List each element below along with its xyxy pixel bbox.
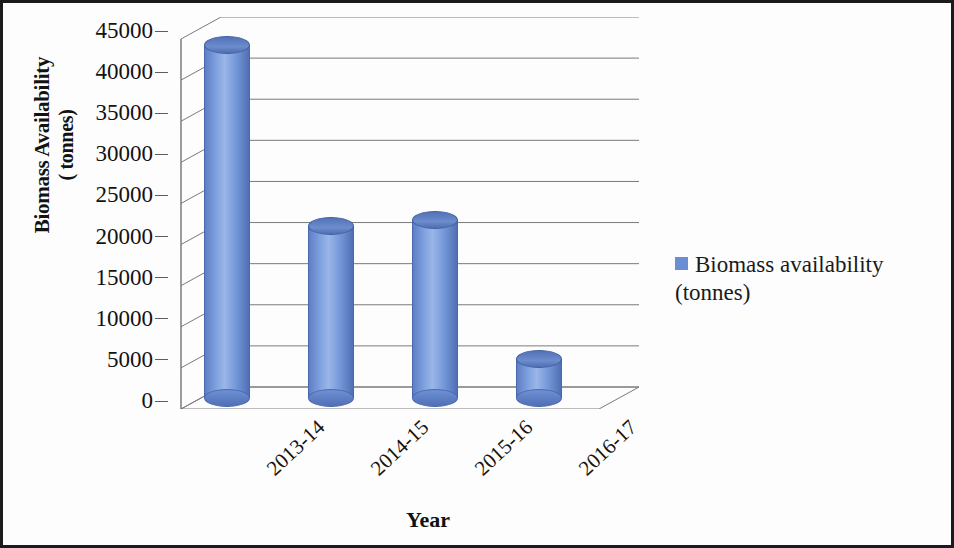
chart-figure: Biomass Availability ( tonnes) 450004000…: [0, 0, 954, 548]
y-axis-tick-mark: [155, 277, 168, 278]
y-axis-tick-label: 35000: [31, 101, 153, 124]
bar-base-ellipse: [412, 389, 458, 407]
x-axis-tick-label: 2013-14: [262, 415, 330, 481]
bar-base-ellipse: [516, 389, 562, 407]
legend-swatch-icon: [675, 257, 688, 270]
bar-top-ellipse: [308, 217, 354, 235]
y-axis-tick-mark: [155, 318, 168, 319]
y-axis-tick-label: 5000: [31, 348, 153, 371]
bar-base-ellipse: [308, 389, 354, 407]
x-axis-tick-label: 2016-17: [574, 415, 642, 481]
y-axis-tick-mark: [155, 113, 168, 114]
x-axis-tick-labels: 2013-142014-152015-162016-17: [171, 409, 651, 505]
legend-item: Biomass availability (tonnes): [675, 252, 937, 306]
bar[interactable]: [516, 350, 562, 398]
x-axis-tick-label: 2015-16: [470, 415, 538, 481]
y-axis-tick-mark: [155, 236, 168, 237]
bar[interactable]: [204, 36, 250, 398]
x-axis-tick-label: 2014-15: [366, 415, 434, 481]
y-axis-tick-mark: [155, 154, 168, 155]
y-axis-tick-mark: [155, 359, 168, 360]
y-axis-tick-mark: [155, 401, 168, 402]
y-axis-tick-label: 15000: [31, 266, 153, 289]
y-axis-tick-mark: [155, 72, 168, 73]
bar-body: [308, 226, 354, 398]
y-axis-tick-label: 0: [31, 389, 153, 412]
y-axis-tick-label: 20000: [31, 225, 153, 248]
y-axis-tick-label: 40000: [31, 60, 153, 83]
bar-body: [204, 45, 250, 398]
y-axis-tick-mark: [155, 195, 168, 196]
y-axis-tick-label: 30000: [31, 142, 153, 165]
y-axis-tick-labels: 4500040000350003000025000200001500010000…: [31, 23, 153, 415]
bar-body: [412, 220, 458, 398]
legend-label-line1: Biomass availability: [695, 252, 883, 277]
x-axis-title: Year: [303, 507, 553, 533]
bar[interactable]: [412, 211, 458, 398]
legend-label-line2: (tonnes): [675, 280, 937, 306]
y-axis-tick-mark: [155, 31, 168, 32]
bar[interactable]: [308, 217, 354, 398]
y-axis-tick-label: 10000: [31, 307, 153, 330]
y-axis-tick-label: 25000: [31, 183, 153, 206]
y-axis-tick-label: 45000: [31, 19, 153, 42]
bar-base-ellipse: [204, 389, 250, 407]
plot-area: [171, 17, 651, 409]
bar-top-ellipse: [412, 211, 458, 229]
legend: Biomass availability (tonnes): [675, 252, 937, 306]
